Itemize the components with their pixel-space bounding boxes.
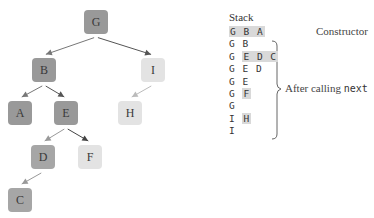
arrowhead-icon [45,135,52,141]
tree-node-h: H [118,101,142,125]
stack-row: G F [229,88,251,100]
stack-row: G B [229,38,249,50]
stack-title: Stack [229,11,253,23]
stack-row: G [229,100,236,112]
stack-row-plain: G [229,51,242,62]
next-method-code: next [344,83,368,94]
after-calling-text: After calling [285,82,344,94]
after-calling-next-label: After calling next [285,82,368,94]
stack-row: G E D C [229,51,278,63]
stack-row-plain: G E D [229,63,263,74]
stack-row-highlight: E D C [242,51,278,62]
stack-row: I H [229,113,251,125]
tree-node-i: I [141,58,165,82]
stack-row-plain: G B [229,38,249,49]
stack-row-highlight: F [242,88,251,99]
stack-row: I [229,125,236,137]
stack-row-plain: G [229,88,242,99]
tree-node-b: B [32,58,56,82]
tree-node-e: E [54,101,78,125]
stack-row: G B A [229,26,265,38]
tree-node-a: A [8,101,32,125]
stack-row-highlight: G B A [229,26,265,37]
stack-row-plain: G E [229,76,249,87]
stack-row-plain: I [229,113,242,124]
arrowhead-icon [46,50,53,56]
stack-row: G E [229,76,249,88]
edge-g-b [46,38,94,55]
tree-node-d: D [31,145,55,169]
edge-g-i [98,38,151,55]
constructor-label: Constructor [316,25,368,37]
stack-row-plain: I [229,125,236,136]
tree-node-f: F [78,145,102,169]
tree-node-g: G [84,10,108,34]
stack-row: G E D [229,63,263,75]
tree-node-c: C [8,188,32,212]
stack-row-plain: G [229,100,236,111]
stack-row-highlight: H [242,113,251,124]
